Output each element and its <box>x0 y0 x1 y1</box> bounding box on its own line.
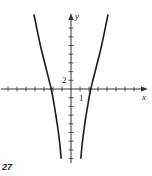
axes <box>1 13 148 163</box>
x-tick-label: 1 <box>79 93 84 103</box>
y-tick-label: 2 <box>62 75 67 85</box>
curve-left-branch <box>34 15 61 158</box>
x-axis-arrow-icon <box>141 87 148 92</box>
y-axis-arrow-icon <box>69 13 74 20</box>
figure-number: 27 <box>2 162 12 172</box>
y-axis-label: y <box>74 11 79 21</box>
x-axis-label: x <box>141 92 146 102</box>
curve-right-branch <box>81 15 108 158</box>
function-graph: yx12 <box>0 0 152 176</box>
